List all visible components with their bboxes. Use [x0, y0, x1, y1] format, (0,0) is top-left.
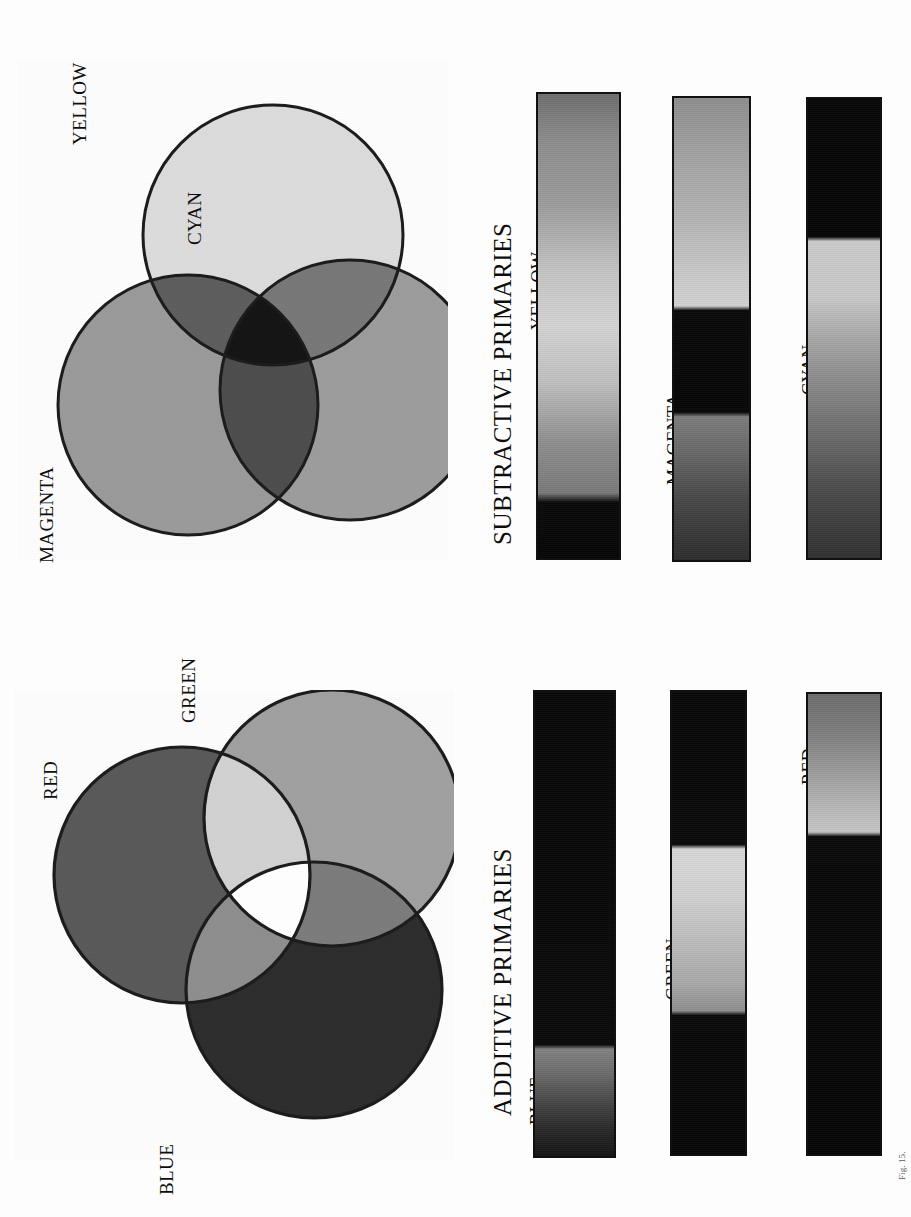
venn-label-yellow: YELLOW	[70, 62, 89, 145]
venn-label-blue: BLUE	[157, 1144, 176, 1195]
red-gradient-fill	[808, 694, 880, 1154]
magenta-gradient-bar	[672, 96, 751, 562]
additive-venn-svg	[14, 690, 454, 1160]
venn-label-green: GREEN	[179, 658, 198, 723]
yellow-gradient-bar	[536, 92, 621, 560]
cyan-gradient-fill	[808, 99, 880, 558]
yellow-gradient-fill	[538, 94, 619, 558]
venn-label-cyan: CYAN	[185, 192, 204, 245]
additive-primaries-title: ADDITIVE PRIMARIES	[490, 848, 515, 1116]
cyan-gradient-bar	[806, 97, 882, 560]
venn-label-red: RED	[41, 761, 60, 800]
blue-gradient-fill	[535, 692, 614, 1156]
green-gradient-bar	[670, 690, 747, 1156]
magenta-gradient-fill	[674, 98, 749, 560]
blue-gradient-bar	[533, 690, 616, 1158]
additive-venn	[14, 690, 454, 1160]
red-gradient-bar	[806, 692, 882, 1156]
subtractive-primaries-title: SUBTRACTIVE PRIMARIES	[490, 223, 515, 545]
figure-caption: Fig. 15.	[898, 1151, 907, 1180]
figure-page: YELLOW CYAN MAGENTA RE	[0, 0, 911, 1217]
venn-label-magenta: MAGENTA	[37, 467, 56, 563]
green-gradient-fill	[672, 692, 745, 1154]
